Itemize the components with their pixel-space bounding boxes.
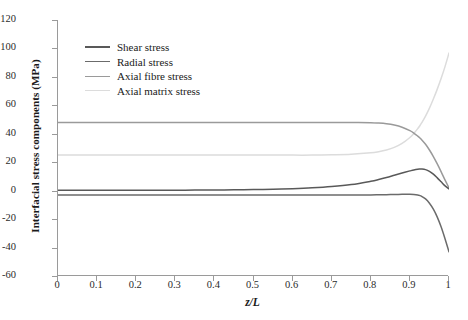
x-tick-mark xyxy=(370,276,371,281)
x-tick-label: 0.8 xyxy=(350,280,390,291)
legend-item[interactable]: Shear stress xyxy=(85,40,265,55)
x-tick-mark xyxy=(174,276,175,281)
y-tick-label: 80 xyxy=(0,71,16,82)
x-tick-mark xyxy=(135,276,136,281)
x-tick-label: 0.3 xyxy=(154,280,194,291)
x-axis-title: z/L xyxy=(57,296,448,308)
legend-swatch-icon xyxy=(85,90,110,91)
legend-item[interactable]: Axial fibre stress xyxy=(85,69,265,84)
series-line xyxy=(58,169,449,190)
x-tick-label: 0 xyxy=(37,280,77,291)
chart-legend: Shear stressRadial stressAxial fibre str… xyxy=(85,40,265,98)
y-tick-label: -60 xyxy=(0,270,16,281)
x-tick-mark xyxy=(292,276,293,281)
legend-label: Axial fibre stress xyxy=(117,70,192,82)
legend-label: Radial stress xyxy=(117,56,173,68)
series-line xyxy=(58,194,449,251)
x-tick-label: 0.7 xyxy=(311,280,351,291)
x-tick-label: 0.2 xyxy=(115,280,155,291)
legend-swatch-icon xyxy=(85,46,110,48)
x-tick-label: 0.6 xyxy=(272,280,312,291)
chart-figure: Interfacial stress components (MPa) z/L … xyxy=(0,0,468,320)
x-tick-label: 0.5 xyxy=(233,280,273,291)
legend-label: Shear stress xyxy=(117,41,169,53)
legend-swatch-icon xyxy=(85,76,110,77)
x-tick-label: 0.1 xyxy=(76,280,116,291)
y-tick-label: -20 xyxy=(0,213,16,224)
y-tick-label: 40 xyxy=(0,128,16,139)
x-tick-mark xyxy=(409,276,410,281)
x-tick-label: 0.9 xyxy=(389,280,429,291)
x-tick-mark xyxy=(253,276,254,281)
x-tick-mark xyxy=(213,276,214,281)
y-tick-label: 100 xyxy=(0,42,16,53)
x-tick-label: 1 xyxy=(428,280,468,291)
y-tick-label: -40 xyxy=(0,242,16,253)
x-tick-mark xyxy=(448,276,449,281)
x-tick-mark xyxy=(96,276,97,281)
y-tick-label: 20 xyxy=(0,156,16,167)
y-axis-title: Interfacial stress components (MPa) xyxy=(29,26,41,266)
x-tick-mark xyxy=(331,276,332,281)
x-tick-label: 0.4 xyxy=(193,280,233,291)
y-tick-label: 120 xyxy=(0,14,16,25)
legend-swatch-icon xyxy=(85,61,110,62)
legend-label: Axial matrix stress xyxy=(117,85,200,97)
legend-item[interactable]: Radial stress xyxy=(85,55,265,70)
x-tick-mark xyxy=(57,276,58,281)
y-tick-label: 0 xyxy=(0,185,16,196)
y-tick-label: 60 xyxy=(0,99,16,110)
legend-item[interactable]: Axial matrix stress xyxy=(85,84,265,99)
